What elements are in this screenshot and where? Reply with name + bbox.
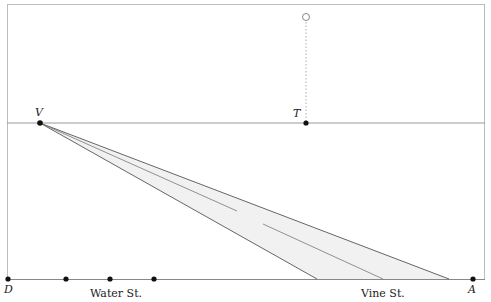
point-v[interactable]: [37, 120, 43, 126]
baseline-dot-2[interactable]: [107, 276, 112, 281]
label-vine-st: Vine St.: [360, 287, 405, 300]
wedge-left-edge: [40, 123, 317, 279]
label-t: T: [293, 107, 302, 120]
baseline-dot-3[interactable]: [151, 276, 156, 281]
label-water-st: Water St.: [90, 287, 142, 300]
label-d: D: [3, 283, 13, 296]
point-a[interactable]: [470, 276, 475, 281]
baseline-dot-1[interactable]: [63, 276, 68, 281]
wedge-middle-segment-1: [40, 123, 237, 211]
point-d[interactable]: [5, 276, 10, 281]
open-point[interactable]: [303, 14, 310, 21]
label-a: A: [467, 283, 476, 296]
point-t[interactable]: [303, 120, 308, 125]
wedge-right-edge: [40, 123, 449, 279]
label-v: V: [35, 106, 44, 119]
diagram-canvas: V T D A Water St. Vine St.: [0, 0, 491, 302]
